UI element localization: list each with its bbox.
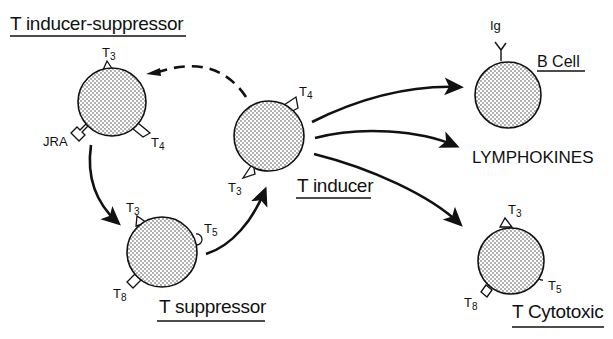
cell-body [234,101,304,171]
t3-receptor-icon [500,218,512,227]
marker-label: T5 [204,221,218,238]
marker-label: T3 [508,202,522,219]
jra-receptor-icon [71,124,88,141]
arrow-inducer-suppressor-to-suppressor [90,145,118,223]
cell-title: T inducer-suppressor [10,13,184,34]
marker-label: T3 [228,180,242,197]
marker-label: T4 [299,84,313,101]
cell-title: B Cell [537,53,580,70]
lymphokines-label: LYMPHOKINES [472,148,594,167]
lymphocyte-diagram: T inducer-suppressor T3 T4 JRA T4 T3 T i… [0,0,613,339]
marker-label: JRA [43,134,68,149]
cell-body [127,217,197,287]
arrowhead-icon [146,68,161,76]
cell-title: T Cytotoxic [512,301,603,322]
arrow-suppressor-to-inducer [206,190,265,254]
cell-t-suppressor: T3 T5 T8 T suppressor [113,200,267,321]
arrow-inducer-to-b-cell [312,87,460,122]
marker-label: T3 [126,200,140,217]
t5-receptor-icon [196,234,202,245]
marker-label: Ig [490,18,501,33]
arrow-inducer-to-inducer-suppressor [158,66,246,97]
arrow-inducer-to-lymphokines [315,131,456,146]
cell-body [475,62,541,128]
ig-antibody-icon [495,42,506,61]
marker-label: T4 [151,135,165,152]
marker-label: T8 [464,295,478,312]
marker-label: T8 [113,286,127,303]
cell-t-inducer: T4 T3 T inducer [228,84,374,198]
marker-label: T5 [548,278,562,295]
cell-t-inducer-suppressor: T inducer-suppressor T3 T4 JRA [10,13,186,152]
cell-b-cell: Ig B Cell [475,18,585,128]
marker-label: T3 [102,45,116,62]
cell-title: T suppressor [159,296,267,317]
cell-body [478,228,544,294]
cell-t-cytotoxic: T3 T5 T8 T Cytotoxic [464,202,604,327]
cell-title: T inducer [297,175,374,196]
cell-body [78,68,146,136]
